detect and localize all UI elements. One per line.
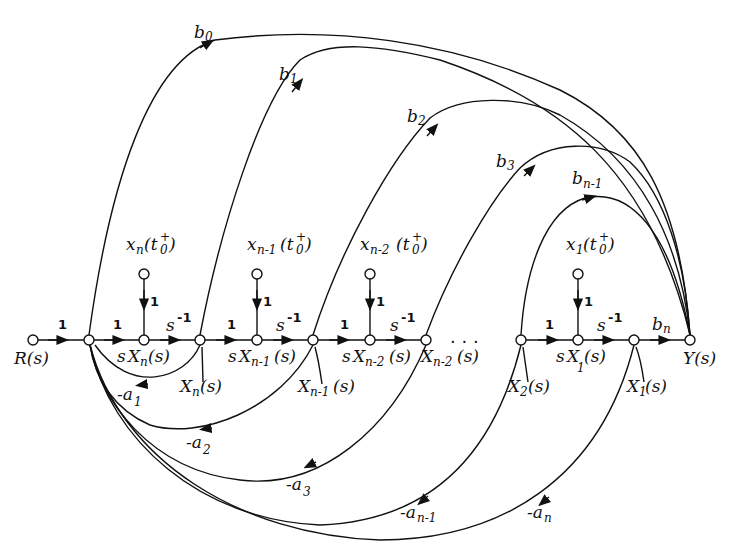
svg-text:X: X [506, 376, 521, 396]
node-X2[interactable] [516, 335, 526, 345]
node-sXn1[interactable] [252, 335, 262, 345]
svg-text:(s): (s) [200, 376, 222, 396]
svg-text:n: n [140, 355, 148, 369]
label-b0: b 0 [194, 22, 213, 44]
node-Y[interactable] [685, 335, 695, 345]
gain-1: 1 [376, 294, 385, 309]
svg-text:n-2: n-2 [365, 355, 384, 369]
svg-text:): ) [304, 234, 312, 254]
gain-1: 1 [340, 317, 349, 332]
svg-text:0: 0 [599, 243, 607, 257]
svg-text:-a: -a [186, 432, 202, 452]
label-Xn1: X n-1 (s) [296, 376, 355, 399]
svg-text:3: 3 [507, 159, 515, 173]
svg-text:x: x [126, 234, 136, 254]
nodes [28, 269, 695, 345]
arrow-icon [427, 127, 435, 136]
node-X1[interactable] [629, 335, 639, 345]
node-sum[interactable] [84, 335, 94, 345]
gain-s-inverse: s -1 [597, 310, 622, 335]
svg-text:b: b [572, 168, 583, 188]
svg-text:s: s [228, 346, 237, 366]
ic-gain-labels: 1 1 1 1 [150, 294, 593, 309]
label-Y: Y(s) [683, 348, 716, 368]
svg-text:X: X [237, 346, 252, 366]
node-sXn2[interactable] [365, 335, 375, 345]
svg-text:b: b [407, 106, 418, 126]
label-a3: -a 3 [286, 474, 311, 499]
svg-text:): ) [420, 234, 428, 254]
pointer-Xn1 [315, 347, 322, 384]
svg-text:n: n [663, 322, 671, 336]
arrow-icon [204, 428, 212, 429]
label-R: R(s) [13, 348, 49, 368]
label-b3: b 3 [496, 151, 515, 173]
svg-text:s: s [390, 315, 399, 335]
node-ic-n2[interactable] [365, 269, 375, 279]
initial-condition-branches [144, 279, 578, 335]
label-Xn2: X n-2 (s) [419, 346, 479, 369]
svg-text:(t: (t [583, 234, 597, 254]
svg-text:(s): (s) [457, 346, 479, 366]
svg-text:0: 0 [412, 243, 420, 257]
arrow-icon [524, 168, 532, 176]
label-X1: X 1 (s) [625, 376, 667, 399]
label-b2: b 2 [407, 106, 426, 128]
svg-text:(s): (s) [528, 376, 550, 396]
gain-1: 1 [263, 294, 272, 309]
svg-text:b: b [652, 314, 663, 334]
label-Xn: X n (s) [178, 376, 222, 399]
label-sX1: s X 1 (s) [556, 346, 606, 375]
ic-label-xn: x n (t 0 + ) [126, 230, 176, 257]
svg-text:n-1: n-1 [417, 511, 436, 525]
svg-text:s: s [342, 346, 351, 366]
svg-text:b: b [194, 22, 205, 42]
svg-text:(t: (t [144, 234, 158, 254]
svg-text:-a: -a [400, 502, 416, 522]
svg-text:(s): (s) [148, 346, 170, 366]
svg-text:(s): (s) [645, 376, 667, 396]
svg-text:s: s [276, 315, 285, 335]
svg-text:(t: (t [280, 234, 294, 254]
svg-text:X: X [625, 376, 640, 396]
label-an1: -a n-1 [400, 502, 436, 525]
svg-text:n-1: n-1 [310, 385, 329, 399]
gain-1: 1 [113, 317, 122, 332]
edge-b1 [200, 47, 690, 335]
node-R[interactable] [28, 335, 38, 345]
svg-text:n: n [136, 243, 144, 257]
arrow-icon [542, 497, 549, 503]
edge-an [90, 345, 634, 540]
svg-text:0: 0 [205, 30, 213, 44]
svg-text:b: b [279, 64, 290, 84]
svg-text:(s): (s) [274, 346, 296, 366]
label-an: -a n [527, 502, 552, 525]
svg-text:s: s [117, 346, 126, 366]
svg-text:): ) [607, 234, 615, 254]
gain-1: 1 [150, 294, 159, 309]
gain-s-inverse: s -1 [390, 310, 415, 335]
ic-label-xn1: x n-1 (t 0 + ) [247, 230, 312, 257]
node-Xn2[interactable] [421, 335, 431, 345]
svg-text:1: 1 [134, 395, 142, 409]
node-ic-n[interactable] [139, 269, 149, 279]
svg-text:n-2: n-2 [433, 355, 452, 369]
svg-text:s: s [556, 346, 565, 366]
svg-text:-a: -a [527, 502, 543, 522]
svg-text:(s): (s) [389, 346, 411, 366]
node-sX1[interactable] [573, 335, 583, 345]
svg-text:3: 3 [303, 485, 311, 499]
svg-text:x: x [566, 234, 576, 254]
svg-text:b: b [496, 151, 507, 171]
arrow-icon [140, 384, 148, 385]
node-ic-1[interactable] [573, 269, 583, 279]
gain-s-inverse: s -1 [166, 310, 191, 335]
node-Xn1[interactable] [308, 335, 318, 345]
node-Xn[interactable] [195, 335, 205, 345]
svg-text:n-1: n-1 [257, 243, 276, 257]
label-sXn: s X n (s) [117, 346, 170, 369]
svg-text:n-2: n-2 [370, 243, 389, 257]
node-ic-n1[interactable] [252, 269, 262, 279]
svg-text:(t: (t [396, 234, 410, 254]
node-sXn[interactable] [139, 335, 149, 345]
